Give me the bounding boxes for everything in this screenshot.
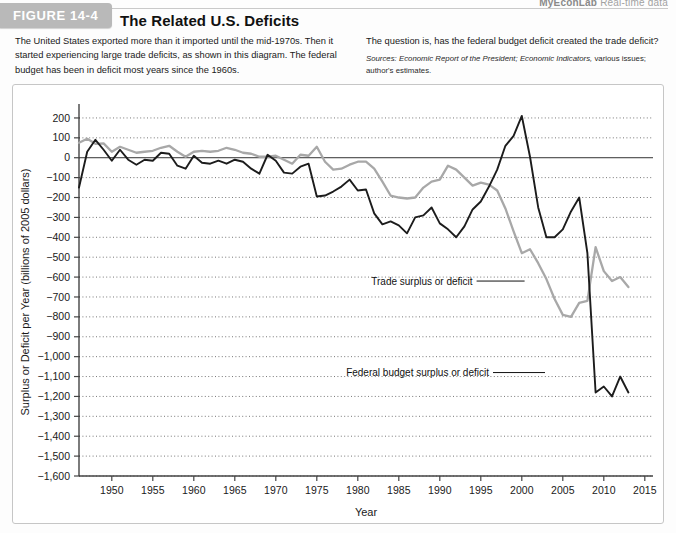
myeconlab-logo: MyEconLab: [539, 0, 597, 8]
x-tick-label: 1995: [469, 484, 493, 496]
sources-label: Sources:: [366, 54, 397, 63]
x-tick-label: 1985: [387, 484, 411, 496]
chart-panel: 2001000−100−200−300−400−500−600−700−800−…: [12, 84, 664, 524]
y-tick-label: −1,000: [38, 350, 71, 362]
myeconlab-tagline: Real-time data: [600, 0, 668, 8]
figure-question-text: The question is, has the federal budget …: [366, 34, 668, 48]
y-tick-label: −1,200: [38, 390, 71, 402]
page-title: The Related U.S. Deficits: [120, 12, 299, 29]
y-tick-label: −1,300: [38, 410, 71, 422]
y-tick-label: −800: [46, 310, 70, 322]
y-tick-label: −200: [46, 191, 70, 203]
x-tick-label: 2015: [633, 484, 657, 496]
x-tick-label: 1990: [428, 484, 452, 496]
x-tick-label: 2005: [551, 484, 575, 496]
figure-description-right: The question is, has the federal budget …: [366, 34, 668, 77]
x-tick-label: 1980: [346, 484, 370, 496]
y-tick-label: −600: [46, 271, 70, 283]
x-tick-label: 1950: [100, 484, 124, 496]
x-tick-label: 1955: [141, 484, 165, 496]
y-tick-label: 0: [64, 151, 70, 163]
y-tick-label: −1,400: [38, 430, 71, 442]
series-line: [79, 139, 628, 317]
x-tick-label: 2010: [592, 484, 616, 496]
x-tick-label: 1960: [182, 484, 206, 496]
x-tick-label: 2000: [510, 484, 534, 496]
x-tick-label: 1970: [264, 484, 288, 496]
deficits-line-chart: 2001000−100−200−300−400−500−600−700−800−…: [13, 85, 665, 525]
x-tick-label: 1975: [305, 484, 329, 496]
y-tick-label: −400: [46, 231, 70, 243]
sources-italic-2: Economic Indicators,: [520, 54, 592, 63]
figure-description-left: The United States exported more than it …: [15, 34, 345, 77]
y-tick-label: −500: [46, 251, 70, 263]
y-tick-label: −1,600: [38, 470, 71, 482]
sources-italic-1: Economic Report of the President;: [399, 54, 518, 63]
figure-number-tab: FIGURE 14-4: [0, 3, 112, 28]
figure-page: MyEconLab Real-time data FIGURE 14-4 The…: [0, 0, 676, 533]
y-tick-label: −1,100: [38, 370, 71, 382]
y-axis-title: Surplus or Deficit per Year (billions of…: [19, 168, 31, 415]
y-tick-label: −900: [46, 330, 70, 342]
y-tick-label: 100: [52, 131, 70, 143]
annotation-budget-label: Federal budget surplus or deficit: [346, 367, 489, 378]
myeconlab-branding: MyEconLab Real-time data: [539, 0, 668, 8]
x-axis-title: Year: [355, 506, 378, 518]
y-tick-label: −1,500: [38, 450, 71, 462]
figure-sources: Sources: Economic Report of the Presiden…: [366, 53, 668, 76]
x-tick-label: 1965: [223, 484, 247, 496]
header-divider: [112, 8, 668, 9]
y-tick-label: −700: [46, 291, 70, 303]
y-tick-label: −100: [46, 171, 70, 183]
y-tick-label: −300: [46, 211, 70, 223]
y-tick-label: 200: [52, 112, 70, 124]
annotation-trade-label: Trade surplus or deficit: [371, 276, 473, 287]
